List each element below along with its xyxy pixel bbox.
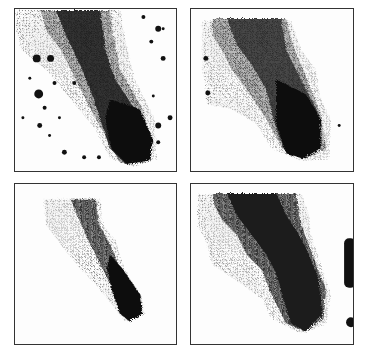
panel-bottom-right (190, 183, 354, 345)
scatter-density-plot (15, 9, 176, 171)
panel-bottom-left (14, 183, 177, 345)
edge-blob (344, 238, 353, 287)
wide-contour-map (191, 184, 353, 344)
panel-top-left (14, 8, 177, 172)
narrow-contour-map (15, 184, 176, 344)
panel-top-right (190, 8, 354, 172)
smoothed-density-map (191, 9, 353, 171)
